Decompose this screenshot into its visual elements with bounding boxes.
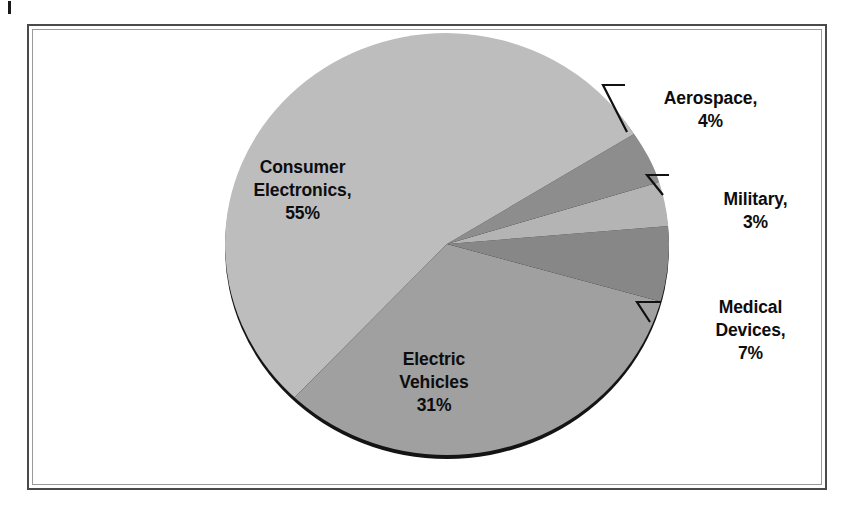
pie-chart-plot-area: Consumer Electronics, 55% Electric Vehic… xyxy=(33,30,821,484)
registration-tick-mark xyxy=(8,1,11,14)
chart-page: Consumer Electronics, 55% Electric Vehic… xyxy=(0,0,858,514)
pie-label-medical-devices: Medical Devices, 7% xyxy=(663,296,838,365)
pie-label-aerospace: Aerospace, 4% xyxy=(623,87,798,133)
pie-label-military: Military, 3% xyxy=(673,188,838,234)
pie-label-consumer-electronics: Consumer Electronics, 55% xyxy=(195,156,410,225)
pie-label-electric-vehicles: Electric Vehicles 31% xyxy=(339,348,529,417)
